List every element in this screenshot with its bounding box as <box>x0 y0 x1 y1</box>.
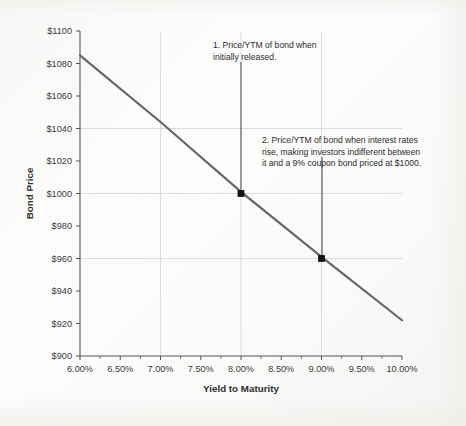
x-axis-tick-label: 9.50% <box>349 364 375 374</box>
y-axis-tick-label: $1080 <box>46 59 72 69</box>
annotation-1: 1. Price/YTM of bond wheninitially relea… <box>213 40 317 62</box>
x-axis-tick-label: 8.50% <box>268 364 294 374</box>
chart-figure: $900$920$940$960$980$1000$1020$1040$1060… <box>0 0 466 426</box>
y-axis-tick-label: $920 <box>52 319 72 329</box>
annotations-group: 1. Price/YTM of bond wheninitially relea… <box>213 40 421 168</box>
annotation-2: 2. Price/YTM of bond when interest rates… <box>262 135 421 168</box>
y-axis-ticks-group: $900$920$940$960$980$1000$1020$1040$1060… <box>46 26 80 361</box>
y-axis-tick-label: $960 <box>52 254 72 264</box>
bond-price-yield-chart: $900$920$940$960$980$1000$1020$1040$1060… <box>0 0 466 426</box>
x-axis-title: Yield to Maturity <box>203 383 279 394</box>
x-axis-tick-label: 7.00% <box>147 364 173 374</box>
y-axis-tick-label: $940 <box>52 286 72 296</box>
x-axis-tick-label: 10.00% <box>386 364 417 374</box>
data-point-marker-1 <box>238 190 245 197</box>
data-point-marker-2 <box>318 255 325 262</box>
x-axis-tick-label: 6.00% <box>67 364 93 374</box>
x-axis-tick-label: 7.50% <box>188 364 214 374</box>
x-axis-ticks-group: 6.00%6.50%7.00%7.50%8.00%8.50%9.00%9.50%… <box>67 356 418 374</box>
y-axis-tick-label: $1060 <box>46 91 72 101</box>
x-axis-tick-label: 9.00% <box>308 364 334 374</box>
y-axis-tick-label: $900 <box>52 351 72 361</box>
x-axis-tick-label: 6.50% <box>107 364 133 374</box>
y-axis-tick-label: $980 <box>52 221 72 231</box>
y-axis-tick-label: $1000 <box>46 189 72 199</box>
y-axis-tick-label: $1040 <box>46 124 72 134</box>
x-axis-tick-label: 8.00% <box>228 364 254 374</box>
y-axis-tick-label: $1020 <box>46 156 72 166</box>
y-axis-title: Bond Price <box>24 167 35 219</box>
y-axis-tick-label: $1100 <box>47 26 72 36</box>
